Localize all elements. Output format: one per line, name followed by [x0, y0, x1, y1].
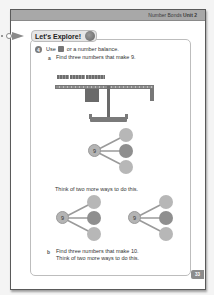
page-number: 33	[191, 270, 204, 279]
number-bond-diagram: 9	[88, 128, 136, 174]
chapter-title: Number Bonds	[148, 12, 181, 18]
arrow-right-icon	[12, 32, 24, 40]
cube-train	[70, 75, 85, 79]
part-a-text: Find three numbers that make 9.	[56, 54, 135, 61]
bond-part[interactable]	[159, 195, 173, 209]
balance-base	[90, 117, 127, 122]
bond-part[interactable]	[159, 211, 173, 225]
bond-part[interactable]	[87, 227, 101, 241]
part-b-line1: Find three numbers that make 10.	[56, 248, 139, 255]
balance-beam	[55, 85, 154, 89]
bond-part[interactable]	[119, 144, 133, 158]
balance-post	[107, 86, 110, 119]
bond-part[interactable]	[119, 160, 133, 174]
header-title: Number Bonds Unit 2	[148, 12, 197, 18]
bond-part[interactable]	[119, 128, 133, 142]
question-number: 4	[35, 46, 42, 53]
part-a-prompt: Think of two more ways to do this.	[55, 186, 138, 193]
bond-whole: 9	[88, 144, 101, 157]
cube-train	[86, 75, 105, 79]
bond-whole: 9	[56, 211, 69, 224]
part-b-label: b	[47, 249, 50, 255]
question-text: Use or a number balance.	[46, 46, 119, 52]
question-text-end: or a number balance.	[67, 46, 119, 52]
cube-icon	[58, 46, 64, 52]
number-bond-diagram: 9	[56, 195, 104, 241]
margin-marker	[0, 32, 26, 40]
number-bond-diagram: 9	[128, 195, 176, 241]
bond-part[interactable]	[87, 195, 101, 209]
part-b-line2: Think of two more ways to do this.	[56, 255, 139, 262]
cube-train	[57, 75, 69, 79]
marker-dot-icon	[1, 35, 3, 37]
balance-weight-left	[85, 89, 99, 102]
bond-part[interactable]	[159, 227, 173, 241]
bond-whole: 9	[128, 211, 141, 224]
explore-tab: Let's Explore!	[31, 30, 97, 42]
explore-title: Let's Explore!	[35, 33, 81, 40]
balance-weight-right	[150, 89, 154, 101]
character-icon	[85, 31, 95, 41]
part-a-label: a	[48, 55, 51, 61]
question-text-start: Use	[46, 46, 56, 52]
header-bar: Number Bonds Unit 2	[11, 10, 205, 21]
bond-part[interactable]	[87, 211, 101, 225]
unit-label: Unit 2	[183, 12, 197, 18]
cube-trains	[57, 75, 105, 79]
